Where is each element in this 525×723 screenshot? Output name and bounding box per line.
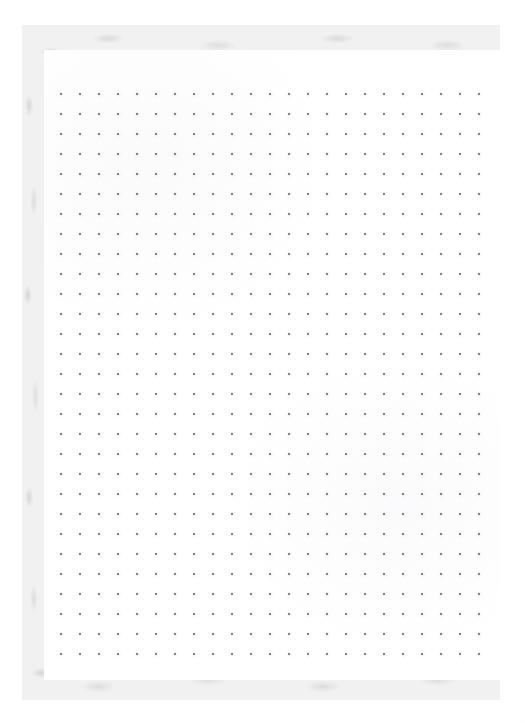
grid-dot xyxy=(326,153,328,155)
grid-dot xyxy=(269,273,271,275)
grid-dot xyxy=(98,153,100,155)
grid-dot xyxy=(421,193,423,195)
paper-grain xyxy=(44,50,500,680)
grid-dot xyxy=(459,153,461,155)
grid-dot xyxy=(383,333,385,335)
grid-dot xyxy=(307,633,309,635)
grid-dot xyxy=(193,593,195,595)
grid-dot xyxy=(79,513,81,515)
grid-dot xyxy=(402,113,404,115)
grid-dot xyxy=(60,433,62,435)
grid-dot xyxy=(212,393,214,395)
grid-dot xyxy=(326,653,328,655)
grid-dot xyxy=(212,373,214,375)
grid-dot xyxy=(231,473,233,475)
grid-dot xyxy=(269,293,271,295)
grid-dot xyxy=(79,113,81,115)
grid-dot xyxy=(98,573,100,575)
grid-dot xyxy=(421,513,423,515)
grid-dot xyxy=(231,593,233,595)
grid-dot xyxy=(98,633,100,635)
grid-dot xyxy=(231,493,233,495)
grid-dot xyxy=(383,233,385,235)
grid-dot xyxy=(478,613,480,615)
grid-dot xyxy=(60,233,62,235)
grid-dot xyxy=(307,433,309,435)
grid-dot xyxy=(478,633,480,635)
grid-dot xyxy=(307,513,309,515)
grid-dot xyxy=(117,513,119,515)
grid-dot xyxy=(288,93,290,95)
grid-dot xyxy=(345,453,347,455)
grid-dot xyxy=(231,173,233,175)
grid-dot xyxy=(402,133,404,135)
grid-dot xyxy=(155,493,157,495)
grid-dot xyxy=(345,133,347,135)
grid-dot xyxy=(345,333,347,335)
grid-dot xyxy=(117,373,119,375)
grid-dot xyxy=(345,293,347,295)
grid-dot xyxy=(345,373,347,375)
grid-dot xyxy=(421,533,423,535)
grid-dot xyxy=(136,573,138,575)
grid-dot xyxy=(364,553,366,555)
grid-dot xyxy=(155,373,157,375)
grid-dot xyxy=(402,433,404,435)
grid-dot xyxy=(421,113,423,115)
grid-dot xyxy=(117,473,119,475)
grid-dot xyxy=(459,193,461,195)
grid-dot xyxy=(212,93,214,95)
grid-dot xyxy=(155,453,157,455)
grid-dot xyxy=(117,193,119,195)
grid-dot xyxy=(60,653,62,655)
grid-dot xyxy=(364,453,366,455)
grid-dot xyxy=(307,173,309,175)
grid-dot xyxy=(117,613,119,615)
grid-dot xyxy=(136,93,138,95)
grid-dot xyxy=(326,113,328,115)
grid-dot xyxy=(364,353,366,355)
grid-dot xyxy=(364,613,366,615)
grid-dot xyxy=(345,313,347,315)
grid-dot xyxy=(136,353,138,355)
grid-dot xyxy=(364,533,366,535)
grid-dot xyxy=(421,613,423,615)
grid-dot xyxy=(307,373,309,375)
grid-dot xyxy=(174,633,176,635)
scan-canvas xyxy=(0,0,525,723)
grid-dot xyxy=(60,493,62,495)
grid-dot xyxy=(307,573,309,575)
grid-dot xyxy=(98,653,100,655)
grid-dot xyxy=(307,193,309,195)
grid-dot xyxy=(459,313,461,315)
grid-dot xyxy=(383,193,385,195)
grid-dot xyxy=(79,453,81,455)
grid-dot xyxy=(174,533,176,535)
grid-dot xyxy=(478,573,480,575)
grid-dot xyxy=(459,593,461,595)
grid-dot xyxy=(288,653,290,655)
grid-dot xyxy=(174,153,176,155)
grid-dot xyxy=(383,93,385,95)
grid-dot xyxy=(364,253,366,255)
grid-dot xyxy=(136,333,138,335)
grid-dot xyxy=(307,313,309,315)
grid-dot xyxy=(193,293,195,295)
grid-dot xyxy=(136,313,138,315)
grid-dot xyxy=(98,253,100,255)
grid-dot xyxy=(212,253,214,255)
grid-dot xyxy=(79,353,81,355)
grid-dot xyxy=(478,133,480,135)
grid-dot xyxy=(60,393,62,395)
grid-dot xyxy=(98,473,100,475)
grid-dot xyxy=(155,193,157,195)
grid-dot xyxy=(60,473,62,475)
grid-dot xyxy=(459,233,461,235)
grid-dot xyxy=(459,533,461,535)
grid-dot xyxy=(136,513,138,515)
grid-dot xyxy=(98,533,100,535)
grid-dot xyxy=(288,173,290,175)
grid-dot xyxy=(478,193,480,195)
grid-dot xyxy=(269,453,271,455)
grid-dot xyxy=(174,173,176,175)
